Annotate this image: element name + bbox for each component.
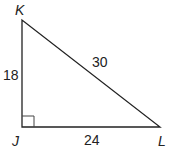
right-triangle-diagram: K J L 18 30 24 xyxy=(0,0,171,154)
side-label-jl: 24 xyxy=(84,132,100,148)
side-label-kj: 18 xyxy=(3,67,19,83)
triangle-jkl xyxy=(22,20,160,127)
vertex-label-l: L xyxy=(158,133,166,149)
side-label-kl: 30 xyxy=(92,54,108,70)
right-angle-marker xyxy=(22,116,34,127)
vertex-label-k: K xyxy=(15,2,25,18)
vertex-label-j: J xyxy=(11,133,20,149)
